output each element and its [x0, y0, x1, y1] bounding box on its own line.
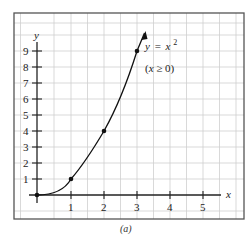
- y-tick-label: 6: [23, 93, 29, 105]
- y-tick-label: 8: [23, 61, 29, 73]
- y-tick-label: 5: [23, 109, 29, 121]
- curve-arrow-icon: [142, 31, 148, 40]
- parabola-curve: [37, 33, 145, 195]
- x-tick-label: 1: [68, 201, 74, 213]
- x-tick-label: 3: [134, 201, 140, 213]
- function-label: y = x 2: [144, 38, 177, 52]
- x-tick-label: 5: [200, 201, 206, 213]
- y-tick-label: 2: [23, 157, 29, 169]
- parabola-chart: 1 2 3 4 5 1 2 3 4 5 6 7 8 9 x y y = x 2 …: [0, 0, 250, 240]
- y-tick-label: 3: [23, 141, 29, 153]
- y-tick-label: 1: [23, 173, 29, 185]
- y-tick-label: 4: [23, 125, 29, 137]
- y-tick-label: 9: [23, 45, 29, 57]
- chart-frame: [14, 13, 244, 219]
- figure-caption: (a): [120, 223, 132, 235]
- x-axis-label: x: [225, 188, 231, 200]
- grid: [14, 13, 244, 219]
- domain-label: (x ≥ 0): [145, 62, 175, 75]
- x-tick-label: 4: [167, 201, 173, 213]
- x-tick-label: 2: [101, 201, 107, 213]
- y-axis-label: y: [33, 29, 39, 41]
- data-points: [35, 49, 140, 198]
- y-tick-label: 7: [23, 77, 29, 89]
